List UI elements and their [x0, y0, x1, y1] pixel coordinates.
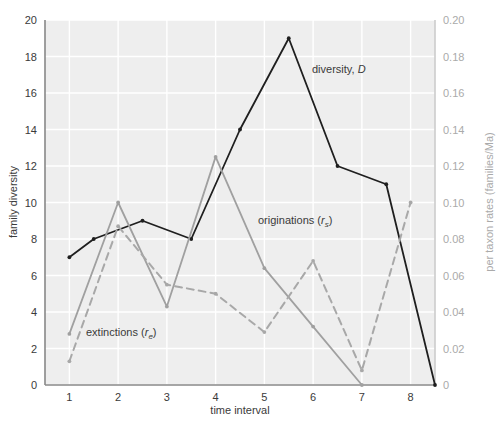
- series-marker-0-7: [384, 182, 388, 186]
- y-axis-left-title: family diversity: [7, 165, 19, 238]
- figure-container: 02468101214161820 00.020.040.060.080.100…: [0, 0, 504, 425]
- x-tick-label: 4: [213, 391, 219, 403]
- y-left-tick-label: 0: [31, 379, 37, 391]
- x-tick-label: 1: [66, 391, 72, 403]
- line-chart: 02468101214161820 00.020.040.060.080.100…: [0, 0, 504, 425]
- y-left-tick-label: 20: [25, 14, 37, 26]
- y-right-tick-label: 0.04: [443, 306, 464, 318]
- series-marker-2-3: [214, 292, 218, 296]
- series-marker-1-0: [67, 332, 71, 336]
- y-left-tick-label: 16: [25, 87, 37, 99]
- y-right-tick-label: 0.02: [443, 343, 464, 355]
- y-right-tick-label: 0.16: [443, 87, 464, 99]
- series-marker-1-5: [311, 325, 315, 329]
- y-left-tick-label: 8: [31, 233, 37, 245]
- series-marker-0-8: [433, 383, 437, 387]
- y-axis-right-ticks: 00.020.040.060.080.100.120.140.160.180.2…: [443, 14, 464, 391]
- series-marker-0-1: [92, 237, 96, 241]
- series-marker-2-2: [165, 283, 169, 287]
- y-axis-left-ticks: 02468101214161820: [25, 14, 37, 391]
- series-marker-0-4: [238, 128, 242, 132]
- series-marker-2-6: [360, 369, 364, 373]
- y-left-tick-label: 14: [25, 124, 37, 136]
- extinctions-label-main: extinctions (: [86, 326, 145, 338]
- y-left-tick-label: 2: [31, 343, 37, 355]
- diversity-label: diversity, D: [312, 63, 366, 75]
- x-tick-label: 6: [310, 391, 316, 403]
- series-marker-0-5: [287, 36, 291, 40]
- x-axis-title: time interval: [210, 404, 269, 416]
- y-axis-right-title: per taxon rates (families/Ma): [483, 132, 495, 271]
- y-right-tick-label: 0.10: [443, 197, 464, 209]
- y-left-tick-label: 6: [31, 270, 37, 282]
- originations-label-main: originations (: [258, 214, 321, 226]
- series-marker-1-1: [116, 201, 120, 205]
- x-axis-ticks: 12345678: [66, 391, 413, 403]
- x-tick-label: 3: [164, 391, 170, 403]
- series-marker-1-3: [214, 155, 218, 159]
- series-marker-2-1: [116, 224, 120, 228]
- y-left-tick-label: 12: [25, 160, 37, 172]
- y-right-tick-label: 0.08: [443, 233, 464, 245]
- y-right-tick-label: 0: [443, 379, 449, 391]
- y-left-tick-label: 18: [25, 51, 37, 63]
- series-marker-2-5: [311, 259, 315, 263]
- y-left-tick-label: 10: [25, 197, 37, 209]
- series-marker-1-6: [360, 383, 364, 387]
- diversity-label-symbol: D: [358, 63, 366, 75]
- originations-label-tail: ): [329, 214, 333, 226]
- series-marker-1-4: [262, 266, 266, 270]
- y-right-tick-label: 0.14: [443, 124, 464, 136]
- series-marker-2-0: [67, 359, 71, 363]
- x-tick-label: 5: [261, 391, 267, 403]
- y-right-tick-label: 0.20: [443, 14, 464, 26]
- extinctions-label-tail: ): [153, 326, 157, 338]
- series-marker-2-7: [409, 201, 413, 205]
- x-tick-label: 7: [359, 391, 365, 403]
- y-right-tick-label: 0.12: [443, 160, 464, 172]
- x-tick-label: 8: [408, 391, 414, 403]
- series-marker-0-2: [141, 219, 145, 223]
- x-tick-label: 2: [115, 391, 121, 403]
- series-marker-0-6: [336, 164, 340, 168]
- diversity-label-main: diversity,: [312, 63, 358, 75]
- series-marker-0-0: [67, 255, 71, 259]
- y-right-tick-label: 0.18: [443, 51, 464, 63]
- y-right-tick-label: 0.06: [443, 270, 464, 282]
- series-marker-2-4: [262, 330, 266, 334]
- series-marker-1-2: [165, 305, 169, 309]
- y-left-tick-label: 4: [31, 306, 37, 318]
